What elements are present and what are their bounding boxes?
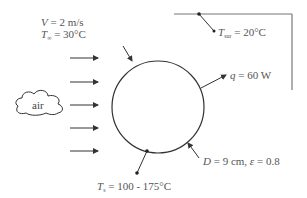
velocity-label: V = 2 m/s (41, 16, 84, 28)
sphere (112, 61, 204, 153)
heat-transfer-diagram: V = 2 m/s T∞ = 30°C air Tsur = 20°C q = … (0, 0, 307, 198)
incident-arrow (123, 46, 132, 61)
heat-arrow (201, 75, 226, 88)
surface-temp-label: Ts = 100 - 175°C (97, 180, 171, 196)
tsur-leader (197, 12, 215, 32)
flow-arrows (70, 58, 98, 151)
diameter-leader (188, 143, 199, 158)
ts-leader (135, 149, 149, 175)
heat-rate-label: q = 60 W (230, 69, 271, 81)
surroundings-temp-label: Tsur = 20°C (218, 26, 266, 42)
air-label: air (32, 99, 44, 111)
ambient-temp-label: T∞ = 30°C (41, 28, 86, 44)
diameter-emissivity-label: D = 9 cm, ε = 0.8 (203, 155, 280, 167)
